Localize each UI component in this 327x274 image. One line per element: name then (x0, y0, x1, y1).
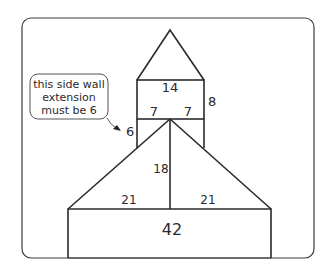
label-triangle-height: 18 (153, 162, 168, 176)
label-bottom-width: 42 (162, 220, 182, 239)
callout-line-3: must be 6 (41, 104, 96, 117)
label-top-right-half: 7 (184, 104, 192, 119)
callout-line-2: extension (42, 91, 96, 104)
label-triangle-right: 21 (200, 193, 215, 207)
label-triangle-left: 21 (121, 193, 136, 207)
house-diagram: 14 8 7 7 6 18 21 21 42 this side wall ex… (0, 0, 327, 274)
callout-line-1: this side wall (33, 78, 104, 91)
label-top-height: 8 (208, 94, 216, 109)
label-top-width: 14 (162, 80, 179, 95)
roof-triangle (137, 30, 204, 80)
label-wall-extension: 6 (126, 124, 134, 139)
callout-arrow-line (107, 118, 116, 128)
callout-arrow-head-icon (113, 125, 121, 131)
label-top-left-half: 7 (150, 104, 158, 119)
